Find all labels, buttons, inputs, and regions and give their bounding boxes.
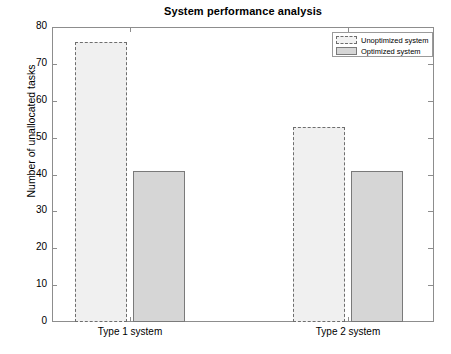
y-tick-mark [428,285,433,286]
bar-optimized-1 [133,171,185,322]
legend-label-optimized: Optimized system [361,47,421,56]
y-tick-mark [52,138,57,139]
y-tick-mark [52,101,57,102]
legend-item-optimized: Optimized system [336,46,429,56]
y-tick-mark [52,175,57,176]
legend-label-unoptimized: Unoptimized system [361,36,429,45]
y-tick-mark [52,64,57,65]
x-tick-mark-bottom [130,317,131,322]
bar-optimized-2 [351,171,403,322]
y-tick-label: 70 [36,57,47,68]
legend-swatch-unoptimized [336,36,357,44]
y-tick-mark [428,101,433,102]
y-tick-mark [428,175,433,176]
y-tick-mark [428,138,433,139]
legend-swatch-optimized [336,47,357,55]
y-tick-label: 80 [36,20,47,31]
x-tick-label: Type 1 system [60,326,200,337]
y-tick-label: 20 [36,241,47,252]
y-tick-label: 0 [41,315,47,326]
y-tick-mark [428,248,433,249]
y-tick-label: 10 [36,278,47,289]
y-tick-mark [52,285,57,286]
y-tick-label: 30 [36,204,47,215]
x-tick-mark-top [130,27,131,32]
y-tick-mark [52,248,57,249]
x-tick-label: Type 2 system [278,326,418,337]
y-tick-mark [428,64,433,65]
legend-item-unoptimized: Unoptimized system [336,35,429,45]
chart-title: System performance analysis [52,5,434,17]
y-tick-label: 50 [36,131,47,142]
bar-unoptimized-1 [75,42,127,322]
chart-figure: System performance analysis Number of un… [0,0,451,354]
bar-unoptimized-2 [293,127,345,322]
chart-legend: Unoptimized system Optimized system [332,32,433,57]
y-tick-label: 40 [36,168,47,179]
y-tick-mark [52,211,57,212]
y-tick-label: 60 [36,94,47,105]
x-tick-mark-bottom [348,317,349,322]
y-tick-mark [428,211,433,212]
